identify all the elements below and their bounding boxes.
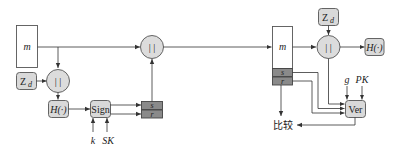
sk-label: SK bbox=[102, 135, 115, 146]
svg-text:| |: | | bbox=[55, 76, 62, 87]
signing-side: m Z d | | H(·) Sign bbox=[17, 26, 164, 147]
verifying-side: m s r Z d | | H(·) bbox=[273, 9, 385, 132]
compare-label: 比较 bbox=[273, 119, 293, 131]
hash-box: H(·) bbox=[49, 101, 69, 118]
pk-label: PK bbox=[355, 74, 370, 85]
g-label: g bbox=[345, 74, 350, 85]
received-message-box: m s r bbox=[273, 27, 293, 86]
svg-text:m: m bbox=[279, 41, 286, 52]
svg-text:H(·): H(·) bbox=[365, 42, 383, 54]
svg-text:Ver: Ver bbox=[349, 104, 364, 115]
svg-text:| |: | | bbox=[325, 42, 332, 53]
digital-signature-diagram: m Z d | | H(·) Sign bbox=[0, 0, 397, 153]
svg-text:Z: Z bbox=[322, 12, 328, 23]
svg-text:Sign: Sign bbox=[91, 104, 109, 115]
s-to-ver-arrow bbox=[293, 73, 345, 109]
random-number-box: Z d bbox=[17, 73, 37, 90]
k-label: k bbox=[91, 135, 96, 146]
verify-box: Ver bbox=[346, 101, 366, 118]
concat-outer-circle: | | bbox=[141, 36, 164, 59]
random-number-box-right: Z d bbox=[319, 9, 339, 26]
hash-box-right: H(·) bbox=[365, 39, 384, 56]
svg-text:Z: Z bbox=[20, 76, 26, 87]
concat-circle-right: | | bbox=[317, 36, 340, 59]
svg-text:| |: | | bbox=[149, 42, 156, 53]
signature-box: s r bbox=[142, 101, 163, 119]
ver-to-compare-arrow bbox=[297, 118, 355, 126]
concat-inner-circle: | | bbox=[47, 70, 70, 93]
message-box: m bbox=[17, 26, 38, 68]
svg-text:H(·): H(·) bbox=[49, 104, 67, 116]
svg-text:m: m bbox=[23, 41, 30, 52]
sign-box: Sign bbox=[91, 101, 111, 118]
concat-to-ver-arrow bbox=[329, 59, 345, 105]
